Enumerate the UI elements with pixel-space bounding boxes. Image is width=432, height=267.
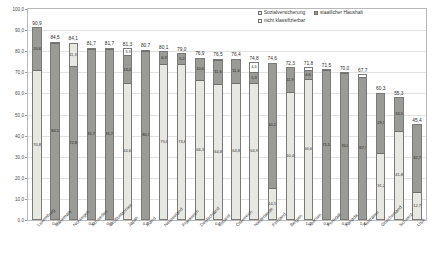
bar-stack[interactable]: 64,613,43,3 [123, 48, 132, 220]
bar-segment-sh[interactable]: 67,7 [359, 78, 366, 219]
bar-stack[interactable]: 41,816,5 [394, 97, 403, 220]
bar-segment-sv[interactable]: 64,6 [124, 84, 131, 219]
bar-column[interactable]: 64,811,676,50,1 [213, 9, 222, 220]
bar-segment-sv[interactable]: 73,8 [178, 65, 185, 219]
bar-segment-sv[interactable]: 11,3 [70, 44, 77, 68]
bar-column[interactable]: 66,310,676,9 [195, 9, 204, 220]
bar-column[interactable]: 70,070,00,0 [340, 9, 349, 220]
bar-segment-value-label: 20,6 [33, 47, 41, 51]
bar-column[interactable]: 41,816,555,3 [394, 9, 403, 220]
bar-segment-sh[interactable]: 13,4 [124, 56, 131, 84]
bar-segment-value-label: 13,4 [124, 68, 132, 72]
bar-column[interactable]: 31,229,160,3 [376, 9, 385, 220]
bar-segment-value-label: 64,9 [250, 149, 258, 153]
bar-segment-sv[interactable]: 70,8 [33, 71, 40, 219]
legend-label-staatlicher-haushalt: staatlicher Haushalt [320, 10, 363, 16]
bar-segment-sv[interactable]: 31,2 [377, 154, 384, 219]
bar-segment-sh[interactable]: 70,0 [341, 74, 348, 219]
bar-segment-sv[interactable]: 64,9 [250, 84, 257, 219]
bar-segment-nk[interactable] [305, 68, 312, 70]
bar-segment-nk[interactable] [51, 43, 58, 44]
bar-stack[interactable]: 73,85,2 [177, 53, 186, 220]
bar-segment-sh[interactable]: 32,7 [413, 125, 420, 193]
bar-segment-sh[interactable]: 72,8 [70, 67, 77, 219]
bar-segment-sh[interactable]: 81,7 [106, 50, 113, 219]
bar-segment-sh[interactable]: 81,7 [88, 50, 95, 219]
bar-stack[interactable]: 12,732,7 [412, 124, 421, 220]
bar-segment-sv[interactable]: 12,7 [413, 193, 420, 219]
bar-column[interactable]: 67,767,71,4 [358, 9, 367, 220]
bar-segment-nk[interactable] [341, 73, 348, 74]
bar-stack[interactable]: 14,560,1 [268, 63, 277, 220]
legend-item-sozialversicherung[interactable]: Sozialversicherung [258, 10, 305, 16]
bar-column[interactable]: 72,811,384,1 [69, 9, 78, 220]
bar-segment-nk[interactable] [214, 60, 221, 61]
bar-stack[interactable]: 72,811,3 [69, 43, 78, 220]
bar-column[interactable]: 60,411,972,3 [286, 9, 295, 220]
bar-segment-sv[interactable]: 66,6 [305, 80, 312, 219]
bar-column[interactable]: 64,613,43,381,3 [123, 9, 132, 220]
bar-segment-sh[interactable]: 10,6 [196, 59, 203, 81]
bar-segment-sh[interactable]: 5,3 [250, 73, 257, 84]
bar-stack[interactable]: 31,229,1 [376, 93, 385, 220]
bar-stack[interactable]: 81,7 [87, 48, 96, 220]
bar-column[interactable]: 84,584,50,0 [50, 9, 59, 220]
bar-column[interactable]: 81,781,70,0 [105, 9, 114, 220]
bar-segment-nk[interactable]: 3,3 [124, 49, 131, 56]
bar-column[interactable]: 12,732,745,4 [412, 9, 421, 220]
bar-stack[interactable]: 60,411,9 [286, 67, 295, 220]
legend-label-sozialversicherung: Sozialversicherung [264, 10, 305, 16]
bar-column[interactable]: 64,95,34,674,8 [249, 9, 258, 220]
bar-stack[interactable]: 71,5 [322, 69, 331, 220]
bar-column[interactable]: 66,64,671,81,1 [304, 9, 313, 220]
bar-stack[interactable]: 66,310,6 [195, 58, 204, 220]
bar-segment-sh[interactable]: 60,1 [269, 64, 276, 189]
bar-stack[interactable]: 70,820,6 [32, 27, 41, 220]
bar-segment-nk[interactable] [359, 75, 366, 78]
bar-column[interactable]: 70,820,690,9 [32, 9, 41, 220]
bar-column[interactable]: 73,86,380,1 [159, 9, 168, 220]
legend-item-staatlicher-haushalt[interactable]: staatlicher Haushalt [314, 10, 363, 16]
bar-column[interactable]: 81,781,70,0 [87, 9, 96, 220]
bar-segment-sv[interactable]: 64,8 [232, 84, 239, 219]
bar-segment-sh[interactable]: 80,1 [142, 52, 149, 219]
bar-stack[interactable]: 80,1 [141, 50, 150, 220]
bar-column[interactable]: 73,85,279,0 [177, 9, 186, 220]
bar-stack[interactable]: 64,95,34,6 [249, 62, 258, 220]
bar-stack[interactable]: 73,86,3 [159, 51, 168, 220]
bar-segment-nk[interactable] [142, 51, 149, 52]
bar-segment-sh[interactable]: 29,1 [377, 94, 384, 154]
bar-segment-sh[interactable]: 5,2 [178, 54, 185, 65]
bar-column[interactable]: 14,560,174,6 [268, 9, 277, 220]
bar-segment-sv[interactable]: 14,5 [269, 189, 276, 219]
bar-segment-sh[interactable]: 11,9 [287, 68, 294, 93]
bar-stack[interactable]: 84,5 [50, 42, 59, 220]
bar-column[interactable]: 64,811,676,4 [231, 9, 240, 220]
bar-stack[interactable]: 66,64,6 [304, 67, 313, 220]
bar-total-label: 45,4 [412, 118, 421, 123]
bar-segment-sh[interactable]: 16,5 [395, 98, 402, 132]
bar-segment-sh[interactable]: 20,6 [33, 28, 40, 71]
bar-segment-sh[interactable]: 11,6 [232, 60, 239, 84]
bar-segment-nk[interactable]: 4,6 [250, 63, 257, 73]
bar-stack[interactable]: 64,811,6 [231, 59, 240, 220]
bar-segment-sv[interactable]: 60,4 [287, 93, 294, 219]
bar-segment-sv[interactable]: 64,8 [214, 85, 221, 219]
legend-item-nicht-klassifizierbar[interactable]: nicht klassifizierbar [258, 18, 305, 24]
bar-stack[interactable]: 70,0 [340, 72, 349, 220]
bar-stack[interactable]: 64,811,6 [213, 59, 222, 220]
bar-segment-nk[interactable] [106, 49, 113, 50]
bar-segment-sv[interactable]: 73,8 [160, 65, 167, 219]
bar-segment-nk[interactable] [88, 49, 95, 50]
bar-stack[interactable]: 67,7 [358, 74, 367, 220]
bar-column[interactable]: 71,571,50,0 [322, 9, 331, 220]
bar-segment-sv[interactable]: 66,3 [196, 81, 203, 219]
bar-segment-sh[interactable]: 11,6 [214, 61, 221, 85]
bar-column[interactable]: 80,180,70,6 [141, 9, 150, 220]
bar-segment-sh[interactable]: 84,5 [51, 44, 58, 219]
bar-segment-sh[interactable]: 6,3 [160, 52, 167, 65]
bar-segment-nk[interactable] [323, 70, 330, 71]
bar-stack[interactable]: 81,7 [105, 48, 114, 220]
bar-segment-sh[interactable]: 71,5 [323, 71, 330, 219]
bar-segment-sh[interactable]: 4,6 [305, 71, 312, 81]
